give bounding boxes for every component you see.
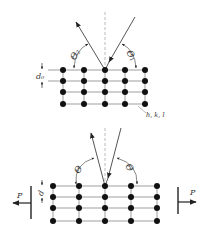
incident-ray: [108, 128, 121, 178]
plane-label: h, k, l: [146, 111, 164, 119]
force-label-right: P: [189, 188, 196, 197]
angle-label-right: Θ₁: [124, 48, 138, 63]
plane-leader: [138, 106, 146, 113]
lower-lattice: [53, 186, 157, 221]
diffracted-ray: [91, 133, 105, 186]
angle-label-left: Θ: [72, 163, 85, 175]
lower-figure: Θ Θ d P P: [13, 128, 196, 224]
angle-label-right: Θ: [123, 162, 136, 174]
spacing-label: d₀: [36, 72, 45, 81]
force-label-left: P: [16, 191, 23, 200]
diffracted-ray: [76, 22, 105, 70]
upper-atoms: [60, 67, 148, 107]
diffraction-diagram: Θ₂ Θ₁ d₀ h, k, l: [0, 0, 209, 233]
upper-figure: Θ₂ Θ₁ d₀ h, k, l: [36, 12, 164, 119]
upper-lattice: [48, 70, 145, 104]
spacing-label: d: [36, 189, 46, 197]
